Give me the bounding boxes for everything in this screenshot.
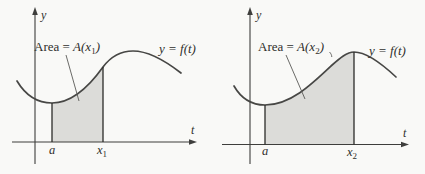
area-label: Area = A(x1) — [34, 39, 100, 56]
y-axis-label: y — [40, 8, 47, 22]
t-axis-label: t — [191, 123, 195, 137]
area-label-leader-line — [66, 55, 79, 101]
curve-equation-label: y = f(t) — [157, 41, 196, 56]
curve-equation-label: y = f(t) — [367, 43, 406, 58]
stray-ink-mark — [330, 52, 332, 57]
panel-area-x2: y t Area = A(x2) y = f(t) a x2 — [222, 7, 409, 164]
tick-label-x2: x2 — [346, 145, 357, 161]
y-axis-arrow-icon — [32, 7, 38, 15]
tick-label-a: a — [49, 143, 55, 157]
shaded-area-region — [265, 52, 354, 145]
t-axis-label: t — [403, 126, 407, 140]
y-axis-label: y — [255, 8, 262, 22]
x-axis-arrow-icon — [189, 139, 197, 144]
tick-label-x1: x1 — [96, 143, 107, 159]
area-label: Area = A(x2) — [258, 39, 324, 56]
shaded-area-region — [52, 67, 103, 142]
accumulation-function-figure: y t Area = A(x1) y = f(t) a x1 y t Area … — [0, 0, 425, 174]
area-label-leader-line — [286, 55, 305, 99]
y-axis-arrow-icon — [247, 7, 253, 15]
x-axis-arrow-icon — [401, 142, 409, 147]
panel-area-x1: y t Area = A(x1) y = f(t) a x1 — [12, 7, 197, 164]
tick-label-a: a — [262, 144, 268, 158]
